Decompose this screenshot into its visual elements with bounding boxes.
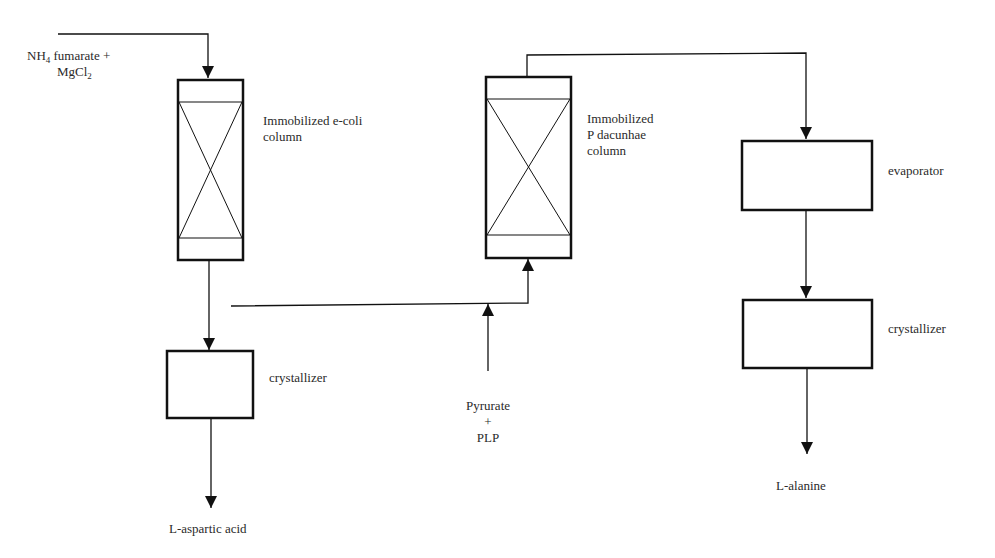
evaporator-label: evaporator bbox=[888, 163, 944, 179]
crystallizer2-label: crystallizer bbox=[888, 321, 946, 337]
product2-label: L-alanine bbox=[776, 478, 826, 494]
column2-pdacunhae bbox=[486, 77, 571, 258]
product1-label: L-aspartic acid bbox=[169, 521, 247, 537]
column1-ecoli bbox=[178, 80, 243, 260]
crystallizer1-label: crystallizer bbox=[269, 370, 327, 386]
column1-label: Immobilized e-coli column bbox=[263, 113, 362, 145]
crystallizer2 bbox=[743, 300, 872, 368]
evaporator bbox=[742, 141, 872, 210]
column2-label: Immobilized P dacunhae column bbox=[587, 111, 653, 159]
crystallizer1 bbox=[167, 351, 253, 418]
feed1-label: NH4 fumarate + MgCl2 bbox=[27, 48, 110, 80]
process-flow-diagram bbox=[0, 0, 995, 558]
feed2-label: Pyrurate + PLP bbox=[446, 398, 530, 446]
transfer-stream bbox=[231, 259, 528, 306]
